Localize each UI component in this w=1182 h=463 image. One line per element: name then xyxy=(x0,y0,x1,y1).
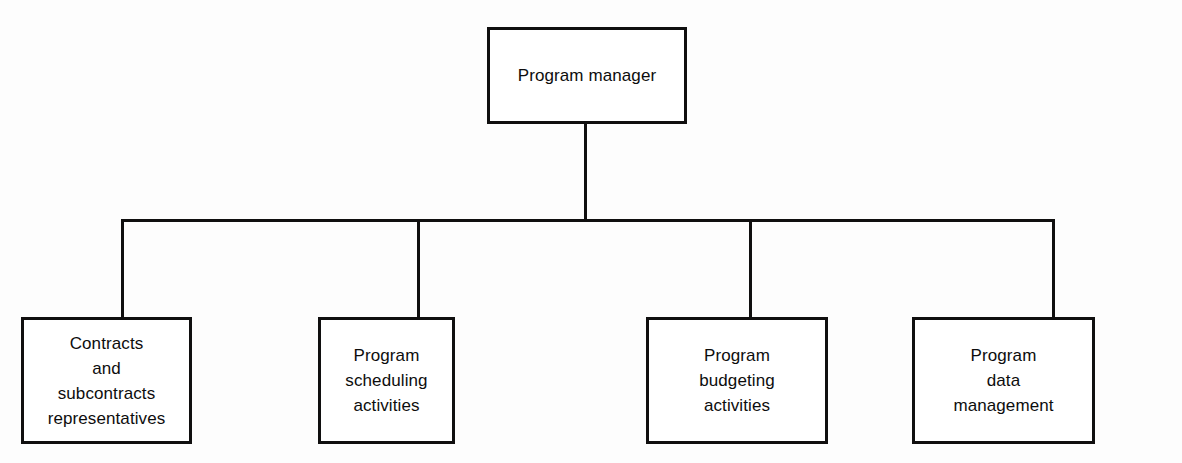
connector-stem-contracts-and-subcontracts-representatives xyxy=(121,219,124,317)
node-program-scheduling-activities[interactable]: Program scheduling activities xyxy=(318,317,455,444)
org-chart-diagram: Program manager Contracts and subcontrac… xyxy=(0,0,1182,463)
node-program-budgeting-activities[interactable]: Program budgeting activities xyxy=(646,317,828,444)
connector-root-stem xyxy=(584,124,587,219)
node-contracts-and-subcontracts-representatives[interactable]: Contracts and subcontracts representativ… xyxy=(21,317,192,444)
connector-stem-program-scheduling-activities xyxy=(417,219,420,317)
node-label-contracts-and-subcontracts-representatives: Contracts and subcontracts representativ… xyxy=(42,331,172,431)
connector-horizontal-bus xyxy=(121,219,1055,222)
node-label-program-manager: Program manager xyxy=(512,63,663,88)
node-program-manager[interactable]: Program manager xyxy=(487,27,687,124)
connector-stem-program-budgeting-activities xyxy=(749,219,752,317)
node-label-program-budgeting-activities: Program budgeting activities xyxy=(693,343,781,418)
node-label-program-scheduling-activities: Program scheduling activities xyxy=(339,343,433,418)
connector-stem-program-data-management xyxy=(1052,219,1055,317)
node-program-data-management[interactable]: Program data management xyxy=(912,317,1095,444)
node-label-program-data-management: Program data management xyxy=(947,343,1059,418)
